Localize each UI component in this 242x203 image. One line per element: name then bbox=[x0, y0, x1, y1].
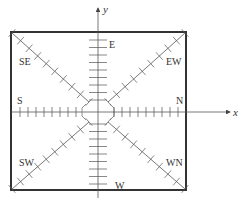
label-S: S bbox=[17, 95, 23, 106]
label-SW: SW bbox=[19, 157, 35, 168]
x-axis-label: x bbox=[232, 106, 238, 118]
label-WN: WN bbox=[166, 157, 183, 168]
label-W: W bbox=[115, 180, 125, 191]
label-SE: SE bbox=[19, 56, 31, 67]
label-E: E bbox=[109, 39, 115, 50]
diagram-canvas: x y E W S N SE EW SW WN bbox=[0, 0, 242, 203]
diagonal-lines bbox=[12, 33, 185, 189]
label-N: N bbox=[176, 95, 183, 106]
y-axis-label: y bbox=[102, 3, 108, 15]
label-EW: EW bbox=[166, 56, 182, 67]
